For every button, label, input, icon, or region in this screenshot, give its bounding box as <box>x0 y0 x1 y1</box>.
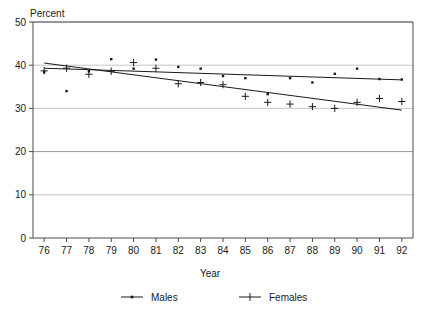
y-tick-label-50: 50 <box>15 17 27 28</box>
data-point-males-92 <box>401 78 403 80</box>
x-tick-label-86: 86 <box>262 245 274 256</box>
data-point-males-90 <box>356 67 358 69</box>
data-point-males-77 <box>65 90 67 92</box>
x-tick-label-92: 92 <box>396 245 408 256</box>
x-tick-label-84: 84 <box>217 245 229 256</box>
y-tick-label-30: 30 <box>15 103 27 114</box>
legend-marker-dot-icon <box>131 296 134 299</box>
legend-label-females: Females <box>269 292 307 303</box>
chart-background <box>0 0 421 311</box>
data-point-males-80 <box>132 67 134 69</box>
data-point-males-84 <box>222 75 224 77</box>
x-tick-label-89: 89 <box>329 245 341 256</box>
x-tick-label-87: 87 <box>284 245 296 256</box>
y-tick-label-20: 20 <box>15 146 27 157</box>
x-tick-label-85: 85 <box>240 245 252 256</box>
x-tick-label-82: 82 <box>173 245 185 256</box>
data-point-males-79 <box>110 58 112 60</box>
data-point-males-82 <box>177 66 179 68</box>
x-tick-label-77: 77 <box>61 245 73 256</box>
data-point-males-91 <box>378 78 380 80</box>
x-tick-label-90: 90 <box>352 245 364 256</box>
chart-container: Percent 01020304050 76777879808182838485… <box>0 0 421 311</box>
x-tick-label-88: 88 <box>307 245 319 256</box>
x-tick-label-91: 91 <box>374 245 386 256</box>
data-point-males-86 <box>267 93 269 95</box>
data-point-males-87 <box>289 77 291 79</box>
data-point-males-88 <box>311 81 313 83</box>
data-point-males-83 <box>199 67 201 69</box>
x-tick-label-83: 83 <box>195 245 207 256</box>
x-tick-label-80: 80 <box>128 245 140 256</box>
x-tick-label-79: 79 <box>106 245 118 256</box>
x-axis-title: Year <box>200 268 221 279</box>
x-tick-label-76: 76 <box>39 245 51 256</box>
x-tick-label-78: 78 <box>83 245 95 256</box>
y-tick-label-0: 0 <box>20 233 26 244</box>
y-tick-label-40: 40 <box>15 60 27 71</box>
y-tick-label-10: 10 <box>15 189 27 200</box>
data-point-males-89 <box>334 73 336 75</box>
legend-label-males: Males <box>151 292 178 303</box>
percent-by-year-scatter-chart: Percent 01020304050 76777879808182838485… <box>0 0 421 311</box>
data-point-males-85 <box>244 77 246 79</box>
data-point-males-81 <box>155 58 157 60</box>
y-axis-title: Percent <box>30 8 65 19</box>
x-tick-label-81: 81 <box>150 245 162 256</box>
